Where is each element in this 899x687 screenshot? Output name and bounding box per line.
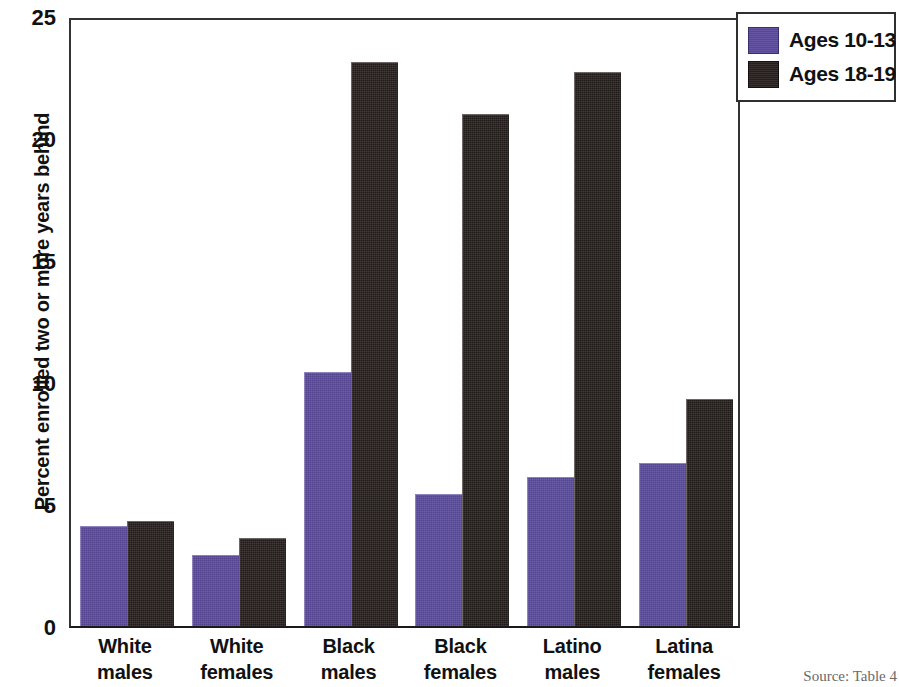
bar-ages-10-13: [192, 555, 239, 626]
bar-group: [71, 20, 183, 626]
y-tick-label: 15: [32, 251, 56, 273]
x-axis-label-line: males: [516, 660, 628, 686]
bar-group: [407, 20, 519, 626]
bar-ages-10-13: [639, 463, 686, 626]
chart-page: Percent enrolled two or more years behin…: [0, 0, 899, 687]
bar-ages-18-19: [574, 72, 621, 626]
bar-group: [295, 20, 407, 626]
x-axis-label-line: Black: [293, 634, 405, 660]
source-note: Source: Table 4: [803, 668, 897, 685]
x-axis-labels: WhitemalesWhitefemalesBlackmalesBlackfem…: [69, 634, 740, 686]
x-axis-label-line: females: [181, 660, 293, 686]
bar-ages-18-19: [239, 538, 286, 626]
x-axis-label: Blackfemales: [405, 634, 517, 685]
bar-ages-10-13: [80, 526, 127, 626]
bar-ages-10-13: [527, 477, 574, 626]
bar-ages-10-13: [304, 372, 351, 626]
bar-ages-18-19: [686, 399, 733, 626]
x-axis-label: Latinomales: [516, 634, 628, 685]
x-axis-label-line: Latino: [516, 634, 628, 660]
chart-legend: Ages 10-13Ages 18-19: [736, 12, 896, 102]
legend-item[interactable]: Ages 18-19: [748, 57, 886, 91]
x-axis-label: Whitefemales: [181, 634, 293, 685]
legend-label: Ages 10-13: [789, 28, 896, 52]
plot-area: [69, 18, 740, 628]
bars-layer: [71, 20, 738, 626]
x-axis-label: Latinafemales: [628, 634, 740, 685]
x-axis-label-line: males: [69, 660, 181, 686]
legend-label: Ages 18-19: [789, 62, 896, 86]
x-axis-label-line: females: [405, 660, 517, 686]
x-axis-label: Whitemales: [69, 634, 181, 685]
legend-swatch-dark: [748, 61, 779, 88]
legend-item[interactable]: Ages 10-13: [748, 23, 886, 57]
bar-group: [518, 20, 630, 626]
y-tick-label: 20: [32, 129, 56, 151]
x-axis-label-line: Latina: [628, 634, 740, 660]
legend-swatch-purple: [748, 27, 779, 54]
bar-group: [183, 20, 295, 626]
bar-ages-18-19: [462, 114, 509, 626]
x-axis-label-line: females: [628, 660, 740, 686]
x-axis-label-line: Black: [405, 634, 517, 660]
bar-ages-18-19: [351, 62, 398, 626]
bar-group: [630, 20, 742, 626]
y-tick-label: 0: [44, 617, 56, 639]
bar-ages-18-19: [127, 521, 174, 626]
x-axis-label-line: White: [181, 634, 293, 660]
y-axis-ticks: 0510152025: [0, 0, 66, 687]
y-tick-label: 25: [32, 7, 56, 29]
y-tick-label: 10: [32, 373, 56, 395]
x-axis-label-line: White: [69, 634, 181, 660]
bar-ages-10-13: [415, 494, 462, 626]
x-axis-label: Blackmales: [293, 634, 405, 685]
y-tick-label: 5: [44, 495, 56, 517]
x-axis-label-line: males: [293, 660, 405, 686]
